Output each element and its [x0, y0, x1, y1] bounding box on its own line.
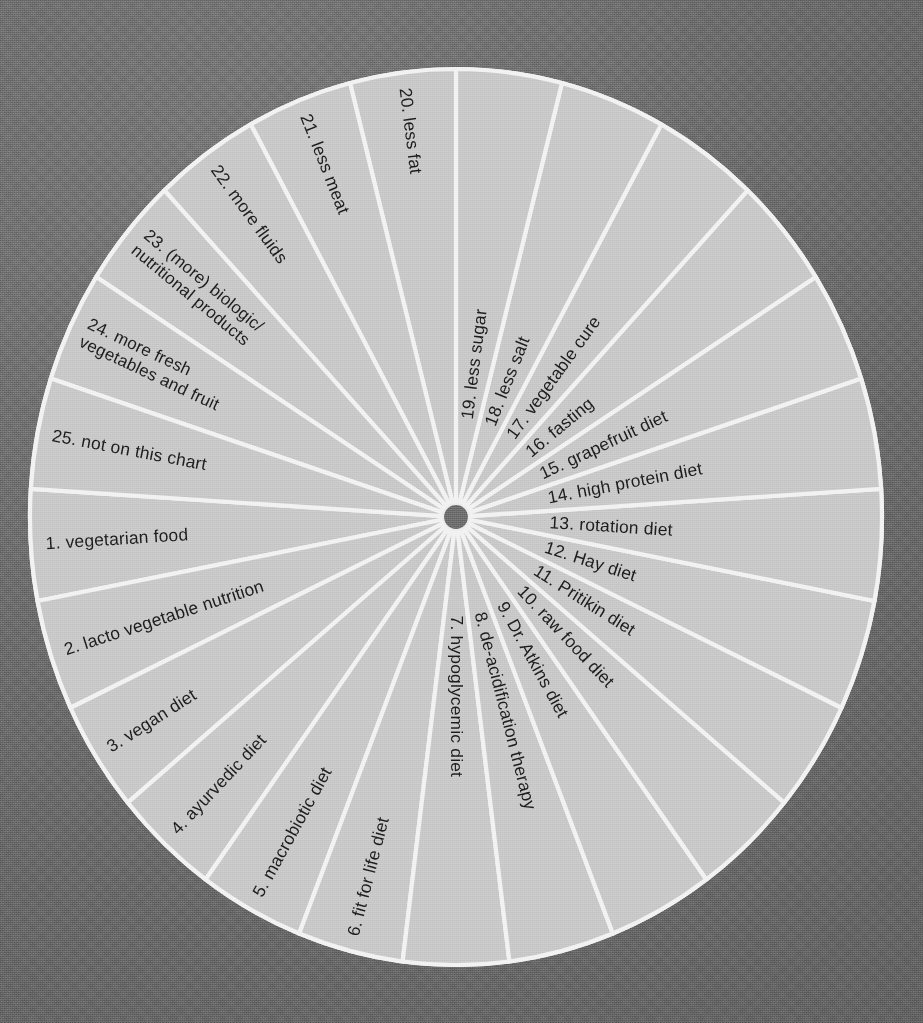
- wheel-hub: [443, 504, 469, 530]
- sector-label-line: 7. hypoglycemic diet: [447, 616, 467, 778]
- sector-label: 7. hypoglycemic diet: [447, 616, 467, 778]
- figure-canvas: 1. vegetarian food2. lacto vegetable nut…: [0, 0, 923, 1023]
- diet-wheel-diagram: 1. vegetarian food2. lacto vegetable nut…: [0, 0, 923, 1023]
